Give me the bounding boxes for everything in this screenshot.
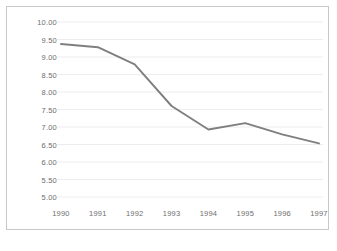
x-tick-label-1995: 1995 (237, 209, 255, 218)
x-tick-label-1993: 1993 (163, 209, 181, 218)
x-tick-label-1994: 1994 (200, 209, 218, 218)
chart-frame: 5.005.506.006.507.007.508.008.509.009.50… (6, 6, 329, 230)
x-tick-label-1991: 1991 (89, 209, 107, 218)
x-tick-label-1997: 1997 (310, 209, 328, 218)
x-tick-label-1990: 1990 (52, 209, 70, 218)
x-tick-label-1996: 1996 (273, 209, 291, 218)
x-tick-label-1992: 1992 (126, 209, 144, 218)
x-axis-tick-labels: 19901991199219931994199519961997 (7, 7, 328, 229)
chart-plot-area: 5.005.506.006.507.007.508.008.509.009.50… (7, 7, 328, 229)
